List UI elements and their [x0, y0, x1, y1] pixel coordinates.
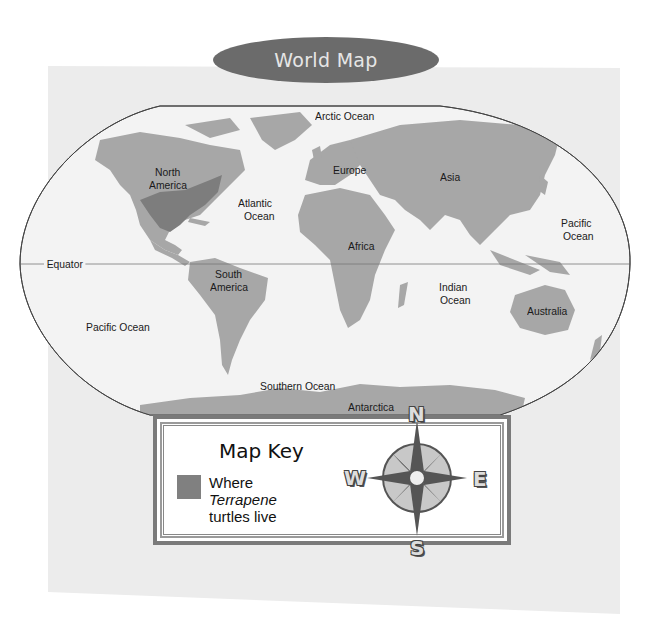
label-atlantic-2: Ocean [244, 210, 275, 223]
label-north-america-1: North [155, 166, 180, 179]
label-southern-ocean: Southern Ocean [260, 380, 335, 393]
map-title: World Map [274, 49, 377, 71]
label-asia: Asia [440, 171, 460, 184]
label-africa: Africa [348, 240, 374, 253]
label-indian-1: Indian [439, 281, 467, 294]
label-south-america-1: South [215, 268, 242, 281]
map-key-title: Map Key [219, 439, 304, 463]
compass-south: S [410, 536, 424, 560]
label-pacific-east-1: Pacific [561, 217, 591, 230]
label-europe: Europe [333, 164, 366, 177]
label-equator: Equator [44, 258, 86, 271]
label-north-america-2: America [149, 179, 187, 192]
label-indian-2: Ocean [440, 294, 471, 307]
compass-rose: N E S W [330, 400, 500, 570]
label-pacific-east-2: Ocean [563, 230, 594, 243]
terrapene-range-swatch [177, 475, 201, 499]
label-pacific-west: Pacific Ocean [86, 321, 150, 334]
label-south-america-2: America [210, 281, 248, 294]
label-arctic-ocean: Arctic Ocean [315, 110, 374, 123]
map-key-entry: Where Terrapene turtles live [209, 474, 277, 525]
key-entry-line1: Where [209, 474, 277, 491]
label-australia: Australia [527, 305, 567, 318]
key-entry-line3: turtles live [209, 508, 277, 525]
compass-east: E [473, 467, 487, 491]
key-entry-line2: Terrapene [209, 491, 277, 508]
compass-north: N [408, 402, 425, 426]
title-banner: World Map [213, 37, 439, 83]
label-atlantic-1: Atlantic [238, 197, 272, 210]
compass-west: W [344, 466, 366, 490]
